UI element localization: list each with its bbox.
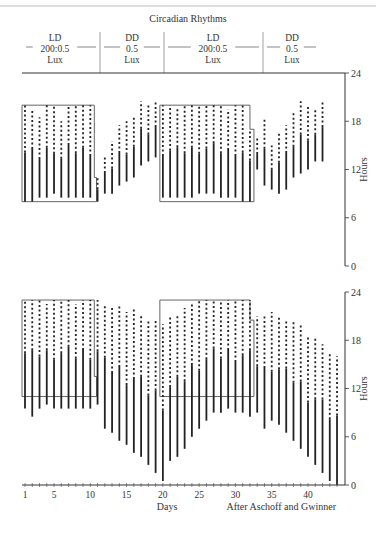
x-tick-label: 20 — [158, 490, 168, 500]
x-tick-label: 40 — [303, 490, 313, 500]
condition-label: Lux — [205, 55, 221, 65]
condition-label: 0.5 — [126, 44, 138, 54]
x-axis-label: Days — [157, 501, 178, 512]
condition-label: 200:0.5 — [199, 44, 228, 54]
condition-label: 0.5 — [286, 44, 298, 54]
lower-panel: 06121824Hours1510152025303540 — [22, 287, 369, 501]
chart-title: Circadian Rhythms — [149, 13, 227, 24]
upper-panel: 06121824Hours — [22, 68, 369, 272]
y-tick-label: 24 — [351, 68, 361, 79]
y-axis-label: Hours — [358, 376, 369, 401]
condition-label: Lux — [284, 55, 300, 65]
condition-label: LD — [207, 33, 220, 43]
x-tick-label: 10 — [86, 490, 96, 500]
light-phase-box — [22, 300, 96, 397]
x-tick-label: 25 — [194, 490, 204, 500]
condition-label: LD — [49, 33, 62, 43]
condition-label: Lux — [47, 55, 63, 65]
y-axis-label: Hours — [358, 157, 369, 182]
x-tick-label: 15 — [122, 490, 132, 500]
condition-label: DD — [125, 33, 139, 43]
y-tick-label: 18 — [351, 335, 361, 346]
actogram-figure: Circadian Rhythms LD200:0.5LuxDD0.5LuxLD… — [0, 0, 376, 535]
x-tick-label: 30 — [231, 490, 241, 500]
light-phase-box — [22, 105, 96, 202]
figure: Circadian Rhythms LD200:0.5LuxDD0.5LuxLD… — [0, 0, 376, 535]
y-tick-label: 6 — [351, 212, 356, 223]
y-tick-label: 0 — [351, 480, 356, 491]
y-tick-label: 0 — [351, 261, 356, 272]
x-tick-label: 1 — [23, 490, 28, 500]
x-tick-label: 5 — [52, 490, 57, 500]
condition-label: Lux — [124, 55, 140, 65]
condition-header: LD200:0.5LuxDD0.5LuxLD200:0.5LuxDD0.5Lux — [22, 32, 345, 73]
credit-text: After Aschoff and Gwinner — [226, 501, 336, 512]
condition-label: 200:0.5 — [41, 44, 70, 54]
y-tick-label: 6 — [351, 431, 356, 442]
y-tick-label: 24 — [351, 287, 361, 298]
x-tick-label: 35 — [267, 490, 277, 500]
y-tick-label: 18 — [351, 116, 361, 127]
condition-label: DD — [285, 33, 299, 43]
